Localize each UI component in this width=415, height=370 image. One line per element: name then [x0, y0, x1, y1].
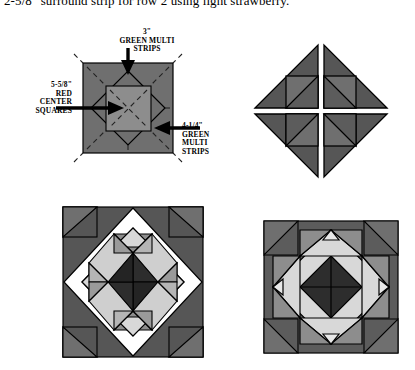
pinwheel-unit-bottom-left — [255, 114, 318, 177]
star-block-framed — [62, 206, 204, 358]
label-red-center-squares: 5-5/8" RED CENTER SQUARES — [0, 81, 72, 115]
pinwheel-quadrants — [255, 45, 387, 177]
diagram-canvas: 2-5/8" surround strip for row 2 using li… — [0, 0, 415, 370]
annotated-construction-block — [70, 50, 190, 168]
pinwheel-unit-top-left — [255, 45, 318, 108]
pinwheel-unit-top-right — [324, 45, 387, 108]
pinwheel-unit-bottom-right — [324, 114, 387, 177]
label-right-line4: STRIPS — [182, 148, 262, 157]
star-block-plain — [263, 220, 399, 354]
pinwheel-block — [254, 44, 388, 178]
page-caption-text: 2-5/8" surround strip for row 2 using li… — [4, 0, 289, 9]
